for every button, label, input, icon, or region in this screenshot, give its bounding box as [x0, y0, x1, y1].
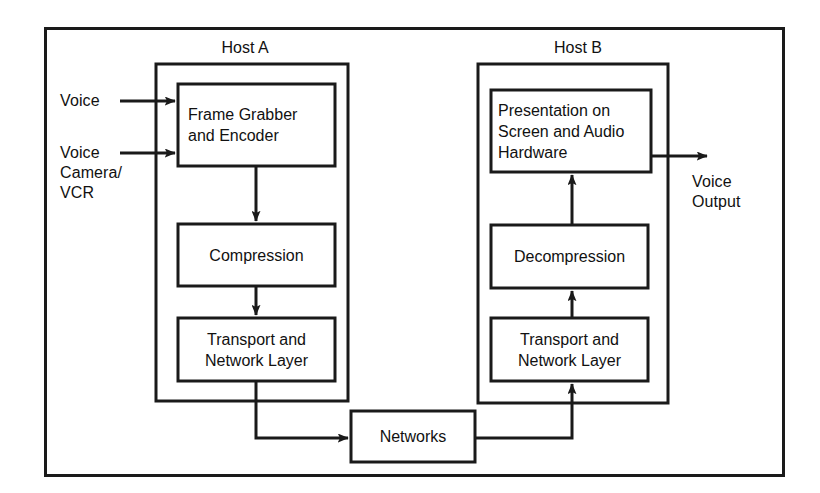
block-transport-b [491, 318, 648, 381]
block-decompression [491, 225, 648, 288]
diagram-vector-layer [0, 0, 820, 493]
block-networks [351, 411, 475, 462]
block-frame-grabber [178, 84, 335, 166]
host-b-title: Host B [523, 38, 633, 58]
input-voice-camera-vcr-label: VoiceCamera/VCR [60, 143, 122, 203]
block-presentation [491, 90, 651, 172]
edge-transport-a-to-networks [256, 381, 348, 438]
input-voice-label: Voice [60, 91, 100, 111]
block-transport-a [178, 318, 335, 381]
diagram-canvas: Host A Host B Frame Grabberand Encoder C… [0, 0, 820, 493]
output-voice-label: VoiceOutput [692, 172, 741, 212]
edge-networks-to-transport-b [475, 384, 572, 438]
host-a-title: Host A [190, 38, 300, 58]
block-compression [178, 224, 335, 286]
